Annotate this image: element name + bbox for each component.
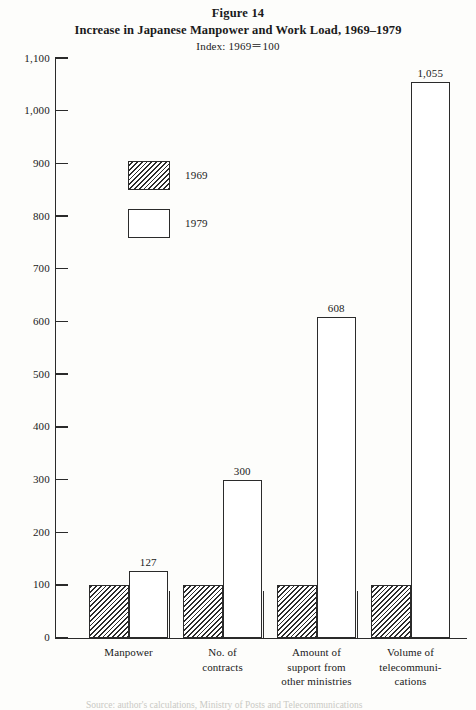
source-note: Source: author's calculations, Ministry … (86, 700, 416, 710)
y-tick-mark (55, 268, 68, 269)
y-tick-label-text: 400 (2, 421, 50, 432)
legend-label-1979: 1979 (185, 218, 208, 229)
y-tick-mark (55, 57, 68, 58)
y-tick-label: 800 (0, 211, 50, 222)
legend-swatch-open-icon (128, 209, 170, 238)
bar-value-label: 127 (115, 557, 183, 568)
bar-1969-4 (371, 585, 411, 638)
y-tick-mark (55, 163, 68, 164)
y-tick-label-text: 1,100 (2, 53, 50, 64)
y-tick-label: 300 (0, 474, 50, 485)
y-tick-label-text: 300 (2, 474, 50, 485)
bar-1969-1 (89, 585, 129, 638)
x-axis-line (55, 638, 467, 639)
plot-area: 01002003004005006007008009001,0001,100 1… (0, 0, 476, 710)
bar-value-label: 1,055 (397, 68, 465, 79)
group-separator (169, 591, 170, 638)
y-tick-label-text: 100 (2, 579, 50, 590)
y-axis-line (55, 58, 56, 639)
y-tick-label-text: 500 (2, 369, 50, 380)
y-tick-mark (55, 373, 68, 374)
legend-label-1969: 1969 (185, 170, 208, 181)
y-tick-mark (55, 637, 68, 638)
y-tick-label: 400 (0, 421, 50, 432)
y-tick-label-text: 200 (2, 527, 50, 538)
y-tick-mark (55, 215, 68, 216)
y-tick-label: 500 (0, 369, 50, 380)
group-separator (357, 591, 358, 638)
figure-14-chart: Figure 14 Increase in Japanese Manpower … (0, 0, 476, 710)
y-tick-label-text: 700 (2, 263, 50, 274)
y-tick-mark (55, 479, 68, 480)
category-label-4: Volume oftelecommuni-cations (355, 645, 467, 689)
legend-swatch-hatched-icon (128, 161, 170, 190)
bar-1969-3 (277, 585, 317, 638)
category-label-line: cations (355, 674, 467, 689)
y-tick-mark (55, 110, 68, 111)
group-separator (263, 591, 264, 638)
y-tick-label: 700 (0, 263, 50, 274)
y-tick-label-text: 0 (2, 632, 50, 643)
y-tick-label-text: 600 (2, 316, 50, 327)
y-tick-label: 200 (0, 527, 50, 538)
category-label-line: telecommuni- (355, 660, 467, 675)
bar-value-label: 608 (303, 303, 371, 314)
y-tick-label: 900 (0, 158, 50, 169)
y-tick-mark (55, 584, 68, 585)
y-tick-label: 0 (0, 632, 50, 643)
y-tick-mark (55, 321, 68, 322)
y-tick-label: 1,000 (0, 105, 50, 116)
y-tick-label: 100 (0, 579, 50, 590)
bar-1979-4 (411, 82, 451, 638)
y-tick-label-text: 1,000 (2, 105, 50, 116)
bar-1969-2 (183, 585, 223, 638)
y-tick-mark (55, 426, 68, 427)
y-tick-label: 1,100 (0, 53, 50, 64)
bar-value-label: 300 (209, 466, 277, 477)
category-label-line: Volume of (355, 645, 467, 660)
y-tick-label: 600 (0, 316, 50, 327)
y-tick-mark (55, 532, 68, 533)
bar-1979-3 (317, 317, 357, 637)
y-tick-label-text: 900 (2, 158, 50, 169)
bar-1979-1 (129, 571, 169, 638)
bar-1979-2 (223, 480, 263, 638)
y-tick-label-text: 800 (2, 211, 50, 222)
